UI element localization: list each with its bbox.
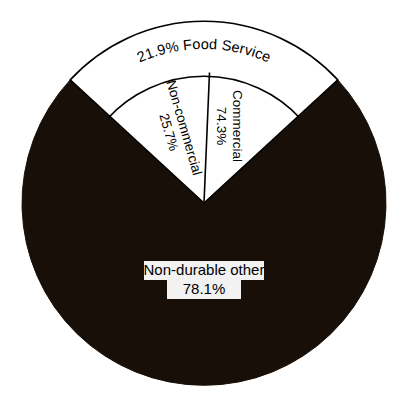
pie-chart-canvas: 21.9% Food Service Non-commercial 25.7% … bbox=[0, 0, 405, 404]
pie-chart-figure: 21.9% Food Service Non-commercial 25.7% … bbox=[0, 0, 405, 404]
label-commercial-value: 74.3% bbox=[214, 107, 229, 145]
label-commercial-name: Commercial bbox=[230, 90, 245, 162]
callout-label-non-durable-other: Non-durable other bbox=[144, 261, 265, 278]
callout-value-non-durable-other: 78.1% bbox=[183, 280, 226, 297]
